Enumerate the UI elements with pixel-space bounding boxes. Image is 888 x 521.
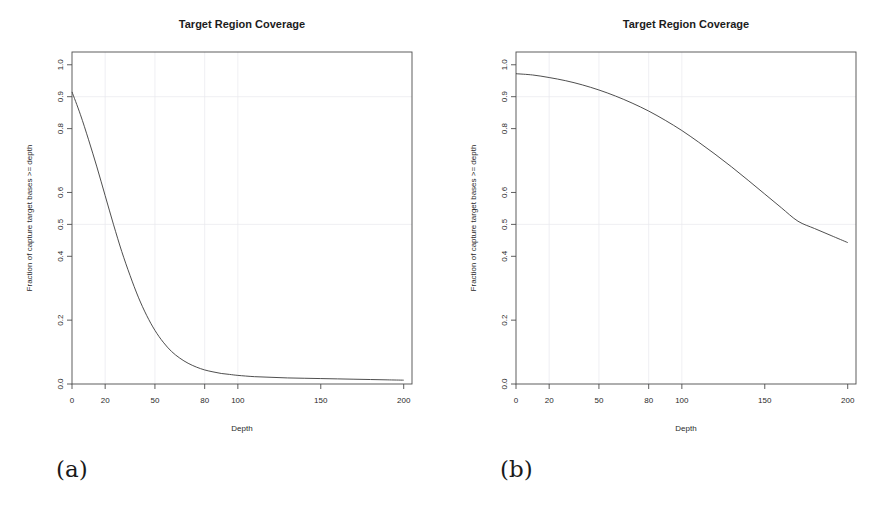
x-tick-label: 20 bbox=[101, 396, 110, 405]
y-tick-label: 1.0 bbox=[500, 59, 509, 71]
x-tick-label: 200 bbox=[397, 396, 411, 405]
plot-box bbox=[516, 52, 856, 384]
x-tick-label: 200 bbox=[841, 396, 855, 405]
y-tick-label: 0.4 bbox=[56, 250, 65, 262]
y-axis-label: Fraction of capture target bases >= dept… bbox=[469, 145, 478, 292]
y-tick-label: 0.6 bbox=[56, 186, 65, 198]
y-tick-label: 0.8 bbox=[500, 123, 509, 135]
x-tick-label: 100 bbox=[675, 396, 689, 405]
y-tick-label: 0.2 bbox=[56, 314, 65, 326]
plot-box bbox=[72, 52, 412, 384]
y-tick-label: 0.8 bbox=[56, 123, 65, 135]
x-tick-label: 100 bbox=[231, 396, 245, 405]
y-tick-label: 1.0 bbox=[56, 59, 65, 71]
y-tick-label: 0.9 bbox=[500, 91, 509, 103]
x-tick-label: 0 bbox=[514, 396, 519, 405]
figure-root: Target Region Coverage0.00.20.40.50.60.8… bbox=[0, 0, 888, 521]
x-tick-label: 80 bbox=[200, 396, 209, 405]
chart-panel-b: Target Region Coverage0.00.20.40.50.60.8… bbox=[444, 0, 888, 450]
x-tick-label: 50 bbox=[594, 396, 603, 405]
panel-caption-a: (a) bbox=[56, 458, 88, 481]
y-tick-label: 0.0 bbox=[500, 378, 509, 390]
figure-panel-a: Target Region Coverage0.00.20.40.50.60.8… bbox=[0, 0, 444, 521]
y-tick-label: 0.5 bbox=[500, 218, 509, 230]
x-tick-label: 20 bbox=[545, 396, 554, 405]
x-tick-label: 0 bbox=[70, 396, 75, 405]
x-axis-label: Depth bbox=[231, 424, 252, 433]
x-tick-label: 50 bbox=[150, 396, 159, 405]
y-tick-label: 0.2 bbox=[500, 314, 509, 326]
y-tick-label: 0.9 bbox=[56, 91, 65, 103]
chart-title: Target Region Coverage bbox=[179, 18, 305, 30]
y-axis-label: Fraction of capture target bases >= dept… bbox=[25, 145, 34, 292]
chart-panel-a: Target Region Coverage0.00.20.40.50.60.8… bbox=[0, 0, 444, 450]
x-axis-label: Depth bbox=[675, 424, 696, 433]
x-tick-label: 150 bbox=[314, 396, 328, 405]
panel-caption-b: (b) bbox=[500, 458, 533, 481]
y-tick-label: 0.4 bbox=[500, 250, 509, 262]
x-tick-label: 150 bbox=[758, 396, 772, 405]
y-tick-label: 0.6 bbox=[500, 186, 509, 198]
y-tick-label: 0.5 bbox=[56, 218, 65, 230]
x-tick-label: 80 bbox=[644, 396, 653, 405]
y-tick-label: 0.0 bbox=[56, 378, 65, 390]
chart-title: Target Region Coverage bbox=[623, 18, 749, 30]
figure-panel-b: Target Region Coverage0.00.20.40.50.60.8… bbox=[444, 0, 888, 521]
